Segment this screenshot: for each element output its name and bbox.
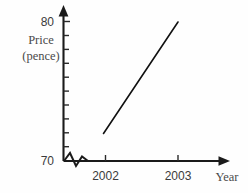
price-trend-line — [104, 22, 179, 134]
y-axis-title-line1: Price — [28, 33, 54, 47]
y-axis-arrow-icon — [59, 5, 69, 17]
x-axis-arrow-icon — [219, 156, 231, 166]
y-tick-label-70: 70 — [41, 154, 55, 168]
x-tick-label-2003: 2003 — [165, 169, 192, 183]
y-axis-title-line2: (pence) — [22, 49, 59, 63]
y-tick-label-80: 80 — [41, 15, 55, 29]
x-axis-title: Year — [215, 170, 239, 184]
chart-canvas: 80 70 Price (pence) 2002 2003 Year — [0, 0, 248, 193]
line-chart-figure: 80 70 Price (pence) 2002 2003 Year — [0, 0, 248, 193]
x-tick-label-2002: 2002 — [92, 169, 119, 183]
axis-break-zigzag-icon — [64, 153, 88, 166]
